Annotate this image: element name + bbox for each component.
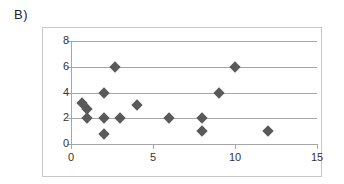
data-point bbox=[131, 100, 142, 111]
figure-panel-b: B) 02468 051015 bbox=[0, 0, 344, 184]
x-tick-0 bbox=[71, 144, 72, 149]
y-tick-label-6: 6 bbox=[47, 61, 69, 72]
scatter-plot-area: 02468 051015 bbox=[43, 28, 323, 178]
data-point bbox=[197, 125, 208, 136]
x-tick-label-15: 15 bbox=[305, 152, 329, 163]
panel-label: B) bbox=[14, 8, 28, 21]
y-tick-label-0: 0 bbox=[47, 138, 69, 149]
gridline-y-6 bbox=[71, 67, 317, 68]
data-point bbox=[197, 113, 208, 124]
x-axis-line bbox=[71, 144, 317, 145]
data-point bbox=[110, 61, 121, 72]
data-point bbox=[98, 128, 109, 139]
y-tick-label-4: 4 bbox=[47, 87, 69, 98]
data-point bbox=[164, 113, 175, 124]
x-tick-5 bbox=[153, 144, 154, 149]
x-tick-10 bbox=[235, 144, 236, 149]
chart-frame: 02468 051015 bbox=[42, 27, 322, 177]
data-point bbox=[229, 61, 240, 72]
data-point bbox=[82, 113, 93, 124]
x-tick-label-0: 0 bbox=[59, 152, 83, 163]
data-point bbox=[115, 113, 126, 124]
data-point bbox=[213, 87, 224, 98]
y-tick-label-8: 8 bbox=[47, 35, 69, 46]
gridline-y-8 bbox=[71, 41, 317, 42]
data-point bbox=[262, 125, 273, 136]
x-tick-15 bbox=[317, 144, 318, 149]
x-tick-label-5: 5 bbox=[141, 152, 165, 163]
x-tick-label-10: 10 bbox=[223, 152, 247, 163]
data-point bbox=[98, 87, 109, 98]
data-point bbox=[98, 113, 109, 124]
y-tick-label-2: 2 bbox=[47, 112, 69, 123]
